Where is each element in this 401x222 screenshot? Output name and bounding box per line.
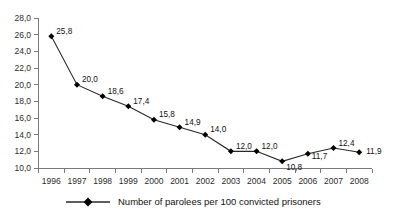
x-tick-label: 1998 [93, 176, 112, 186]
y-tick-label: 12,0 [14, 146, 31, 156]
y-tick-label: 20,0 [14, 80, 31, 90]
legend-label: Number of parolees per 100 convicted pri… [118, 196, 321, 207]
x-tick-label: 2004 [247, 176, 266, 186]
data-point-marker [305, 151, 311, 157]
series-markers [48, 33, 362, 164]
data-point-label: 17,4 [133, 97, 149, 106]
y-tick-label: 28,0 [14, 13, 31, 23]
line-chart: 28,026,024,022,020,018,016,014,012,010,0… [0, 0, 401, 222]
data-point-marker [279, 158, 285, 164]
x-axis-ticks [39, 169, 373, 173]
data-point-marker [100, 93, 106, 99]
data-point-label: 10,8 [286, 163, 302, 172]
x-tick-label: 1999 [119, 176, 138, 186]
data-point-marker [151, 117, 157, 123]
x-tick-label: 1997 [68, 176, 87, 186]
x-tick-label: 1996 [42, 176, 61, 186]
data-point-marker [48, 33, 54, 39]
legend: Number of parolees per 100 convicted pri… [66, 196, 321, 207]
y-tick-label: 22,0 [14, 63, 31, 73]
data-point-label: 12,0 [262, 142, 278, 151]
x-tick-label: 2008 [350, 176, 369, 186]
x-axis-tick-labels: 1996199719981999200020012002200320042005… [42, 176, 369, 186]
data-point-label: 14,0 [210, 125, 226, 134]
data-point-marker [74, 82, 80, 88]
x-tick-label: 2007 [324, 176, 343, 186]
x-tick-label: 2006 [298, 176, 317, 186]
data-point-marker [331, 145, 337, 151]
data-point-label: 25,8 [56, 27, 72, 36]
data-point-marker [177, 124, 183, 130]
data-point-marker [356, 149, 362, 155]
x-tick-label: 2001 [170, 176, 189, 186]
data-point-label: 12,4 [339, 139, 355, 148]
data-point-label: 18,6 [108, 87, 124, 96]
data-point-label: 12,0 [236, 142, 252, 151]
y-tick-label: 18,0 [14, 96, 31, 106]
data-point-marker [125, 103, 131, 109]
data-point-label: 20,0 [82, 75, 98, 84]
data-point-label: 11,9 [366, 147, 382, 156]
y-tick-label: 24,0 [14, 46, 31, 56]
x-tick-label: 2003 [221, 176, 240, 186]
y-axis-ticks [34, 18, 39, 168]
x-tick-label: 2005 [273, 176, 292, 186]
data-point-label: 14,9 [185, 118, 201, 127]
x-tick-label: 2002 [196, 176, 215, 186]
y-axis-tick-labels: 28,026,024,022,020,018,016,014,012,010,0 [14, 13, 31, 173]
y-tick-label: 26,0 [14, 30, 31, 40]
data-point-marker [254, 148, 260, 154]
series-line-parolees [51, 36, 359, 161]
y-tick-label: 10,0 [14, 163, 31, 173]
y-tick-label: 14,0 [14, 130, 31, 140]
legend-diamond-icon [84, 198, 93, 207]
chart-canvas: 28,026,024,022,020,018,016,014,012,010,0… [0, 0, 401, 222]
data-point-marker [228, 148, 234, 154]
data-point-label: 11,7 [312, 152, 328, 161]
data-point-marker [202, 132, 208, 138]
data-point-label: 15,8 [159, 110, 175, 119]
x-tick-label: 2000 [144, 176, 163, 186]
y-tick-label: 16,0 [14, 113, 31, 123]
